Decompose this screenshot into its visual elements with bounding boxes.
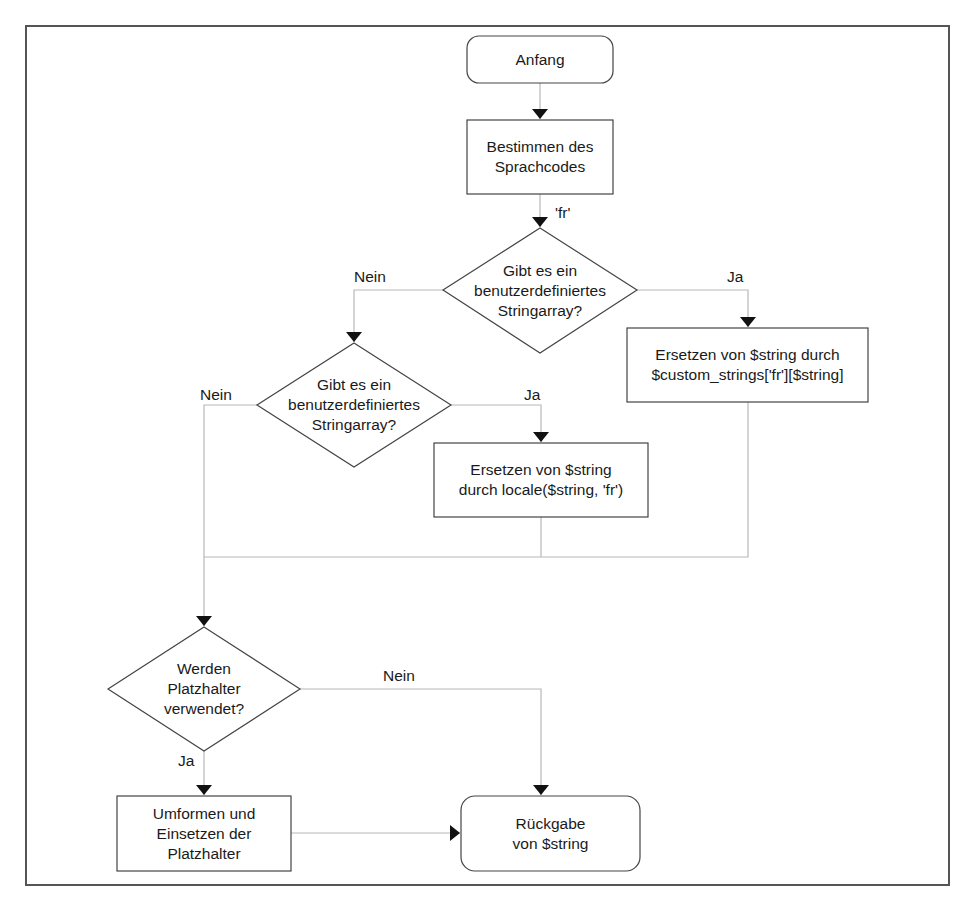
decision-locale-node: Gibt es ein benutzerdefiniertes Stringar… (257, 343, 451, 467)
edge-label-placeholder-yes: Ja (178, 752, 194, 770)
edge-label-lang-code: 'fr' (555, 204, 570, 222)
edge-label-custom-no: Nein (354, 268, 386, 286)
edge-label-locale-yes: Ja (524, 386, 540, 404)
start-node: Anfang (467, 36, 613, 83)
decision-custom-node: Gibt es ein benutzerdefiniertes Stringar… (443, 228, 637, 353)
edge-label-custom-yes: Ja (727, 268, 743, 286)
replace-locale-node: Ersetzen von $string durch locale($strin… (434, 443, 648, 517)
decision-placeholder-node: Werden Platzhalter verwendet? (108, 627, 300, 751)
edge-label-locale-no: Nein (200, 386, 232, 404)
transform-placeholder-node: Umformen und Einsetzen der Platzhalter (117, 796, 291, 871)
determine-lang-node: Bestimmen des Sprachcodes (467, 120, 613, 194)
edge-label-placeholder-no: Nein (383, 667, 415, 685)
replace-custom-node: Ersetzen von $string durch $custom_strin… (627, 328, 868, 402)
return-node: Rückgabe von $string (461, 796, 640, 871)
